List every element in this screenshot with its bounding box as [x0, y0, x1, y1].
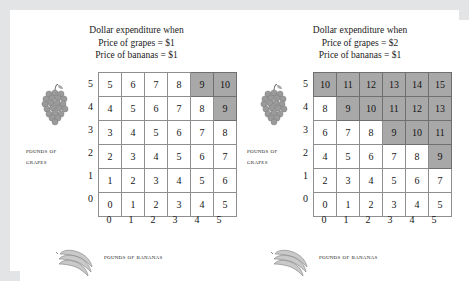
panel-left-title-line3: Price of bananas = $1	[34, 49, 239, 62]
y-tick-label: 4	[294, 101, 308, 112]
table-row: 67891011	[314, 121, 452, 145]
expenditure-cell: 4	[191, 193, 214, 217]
expenditure-cell: 2	[99, 145, 122, 169]
table-row: 012345	[314, 193, 452, 217]
panel-left-title: Dollar expenditure when Price of grapes …	[34, 24, 239, 62]
bananas-icon	[271, 248, 317, 278]
expenditure-cell: 8	[406, 145, 429, 169]
y-axis-caption-left-line2: grapes	[26, 157, 84, 168]
figure-canvas: Dollar expenditure when Price of grapes …	[20, 20, 469, 281]
expenditure-cell: 7	[168, 97, 191, 121]
expenditure-cell: 5	[122, 97, 145, 121]
y-tick-label: 3	[79, 124, 93, 135]
expenditure-cell: 9	[191, 73, 214, 97]
expenditure-cell: 1	[99, 169, 122, 193]
expenditure-cell: 7	[214, 145, 237, 169]
panel-right-title-line3: Price of bananas = $1	[255, 49, 465, 62]
y-tick-label: 1	[79, 170, 93, 181]
panel-right-title: Dollar expenditure when Price of grapes …	[255, 24, 465, 62]
y-axis-caption-left-line1: Pounds of	[26, 146, 84, 157]
y-tick-label: 0	[79, 193, 93, 204]
table-row: 5678910	[99, 73, 237, 97]
expenditure-cell: 13	[383, 73, 406, 97]
x-tick-label: 0	[98, 214, 120, 225]
x-tick-label: 4	[401, 214, 423, 225]
expenditure-cell: 12	[360, 73, 383, 97]
expenditure-cell: 6	[145, 97, 168, 121]
expenditure-cell: 8	[191, 97, 214, 121]
y-tick-label: 2	[294, 147, 308, 158]
expenditure-cell: 11	[429, 121, 452, 145]
expenditure-cell: 3	[99, 121, 122, 145]
panel-right: Dollar expenditure when Price of grapes …	[245, 20, 469, 281]
x-tick-label: 2	[357, 214, 379, 225]
table-row: 101112131415	[314, 73, 452, 97]
expenditure-table-right: 1011121314158910111213678910114567892345…	[313, 72, 452, 217]
y-tick-label: 5	[294, 78, 308, 89]
table-row: 123456	[99, 169, 237, 193]
grapes-icon	[38, 84, 72, 126]
table-row: 234567	[314, 169, 452, 193]
expenditure-cell: 7	[429, 169, 452, 193]
x-tick-label: 3	[164, 214, 186, 225]
x-axis-caption-left: Pounds of bananas	[104, 252, 162, 263]
expenditure-cell: 8	[214, 121, 237, 145]
y-tick-label: 5	[79, 78, 93, 89]
x-tick-label: 2	[142, 214, 164, 225]
x-tick-label: 1	[335, 214, 357, 225]
x-tick-label: 4	[186, 214, 208, 225]
expenditure-cell: 11	[383, 97, 406, 121]
expenditure-cell: 1	[337, 193, 360, 217]
expenditure-cell: 4	[360, 169, 383, 193]
table-row: 456789	[99, 97, 237, 121]
expenditure-cell: 11	[337, 73, 360, 97]
x-tick-label: 5	[208, 214, 230, 225]
expenditure-cell: 5	[191, 169, 214, 193]
bananas-icon	[56, 248, 102, 278]
expenditure-cell: 9	[214, 97, 237, 121]
y-tick-label: 4	[79, 101, 93, 112]
expenditure-cell: 4	[122, 121, 145, 145]
expenditure-cell: 8	[168, 73, 191, 97]
expenditure-cell: 7	[337, 121, 360, 145]
expenditure-cell: 5	[429, 193, 452, 217]
expenditure-cell: 10	[406, 121, 429, 145]
x-axis-caption-right: Pounds of bananas	[319, 252, 377, 263]
expenditure-cell: 7	[191, 121, 214, 145]
y-axis-caption-left: Pounds of grapes	[26, 146, 84, 167]
expenditure-cell: 7	[383, 145, 406, 169]
expenditure-cell: 4	[168, 169, 191, 193]
expenditure-cell: 13	[429, 97, 452, 121]
expenditure-cell: 3	[383, 193, 406, 217]
table-row: 345678	[99, 121, 237, 145]
table-row: 234567	[99, 145, 237, 169]
expenditure-cell: 9	[337, 97, 360, 121]
expenditure-cell: 4	[145, 145, 168, 169]
expenditure-cell: 6	[314, 121, 337, 145]
expenditure-cell: 5	[145, 121, 168, 145]
table-row: 012345	[99, 193, 237, 217]
expenditure-cell: 1	[122, 193, 145, 217]
expenditure-cell: 8	[314, 97, 337, 121]
expenditure-cell: 3	[337, 169, 360, 193]
expenditure-cell: 10	[214, 73, 237, 97]
expenditure-cell: 3	[122, 145, 145, 169]
expenditure-cell: 0	[99, 193, 122, 217]
x-tick-label: 3	[379, 214, 401, 225]
expenditure-cell: 6	[122, 73, 145, 97]
expenditure-cell: 2	[314, 169, 337, 193]
expenditure-cell: 2	[360, 193, 383, 217]
panel-left-title-line2: Price of grapes = $1	[34, 37, 239, 50]
expenditure-cell: 3	[168, 193, 191, 217]
expenditure-cell: 6	[191, 145, 214, 169]
expenditure-cell: 4	[314, 145, 337, 169]
expenditure-table-right-body: 1011121314158910111213678910114567892345…	[314, 73, 452, 217]
expenditure-cell: 3	[145, 169, 168, 193]
expenditure-cell: 5	[168, 145, 191, 169]
expenditure-cell: 5	[214, 193, 237, 217]
table-row: 8910111213	[314, 97, 452, 121]
expenditure-cell: 10	[314, 73, 337, 97]
expenditure-cell: 6	[406, 169, 429, 193]
panel-right-title-line2: Price of grapes = $2	[255, 37, 465, 50]
expenditure-cell: 6	[168, 121, 191, 145]
